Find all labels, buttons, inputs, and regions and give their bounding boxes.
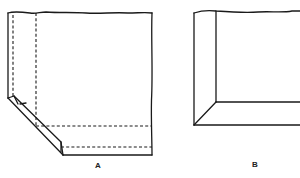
panel-a-diagonal-inner bbox=[8, 96, 61, 152]
panel-b-drawing bbox=[194, 11, 300, 125]
panel-a-right-edge bbox=[151, 13, 152, 155]
panel-b-top-edge bbox=[194, 11, 300, 13]
panel-a-label: A bbox=[95, 162, 101, 170]
diagram-canvas bbox=[0, 0, 300, 178]
panel-b-label: B bbox=[252, 161, 258, 169]
panel-a-drawing bbox=[8, 12, 152, 155]
panel-a-top-edge bbox=[8, 12, 152, 13]
panel-b-miter-diagonal bbox=[194, 102, 216, 125]
panel-a-diagonal-outer bbox=[8, 98, 63, 155]
